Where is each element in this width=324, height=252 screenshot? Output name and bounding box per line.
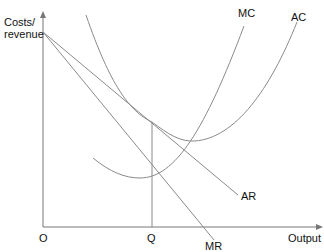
ar-label: AR [241,190,256,202]
ac-label: AC [291,11,306,23]
ar-curve [43,32,238,195]
y-axis-label-line2: revenue [4,28,44,40]
mc-label: MC [238,7,255,19]
mr-curve [43,32,214,240]
diagram-canvas [0,0,324,252]
mc-curve [93,26,244,178]
quantity-label: Q [147,232,156,244]
mr-label: MR [205,240,222,252]
x-axis-label: Output [288,232,321,244]
y-axis-label-line1: Costs/ [4,16,35,28]
origin-label: O [39,232,48,244]
